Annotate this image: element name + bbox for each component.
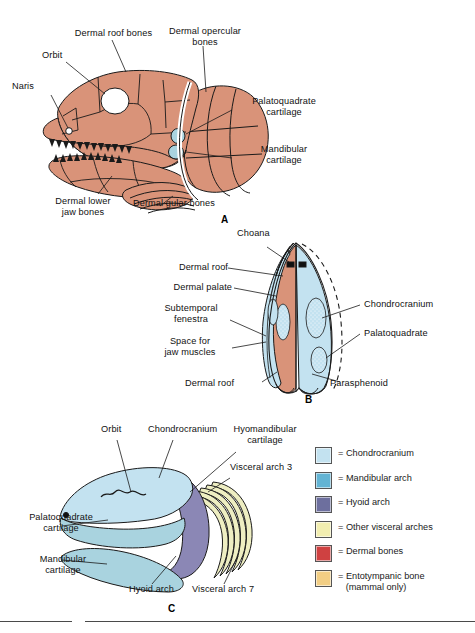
legend: = Chondrocranium = Mandibular arch = Hyo… [315, 447, 475, 600]
label-palatoquadrate-cartilage: Palatoquadrate cartilage [236, 96, 332, 118]
legend-label-dermal-bones: = Dermal bones [338, 545, 403, 557]
label-hyoid-arch: Hyoid arch [129, 584, 174, 595]
label-visceral-arch-3: Visceral arch 3 [230, 462, 292, 473]
label-chondrocranium-c: Chondrocranium [148, 424, 217, 435]
choana-right [299, 262, 306, 267]
label-orbit: Orbit [42, 50, 62, 61]
label-dermal-lower-jaw-bones: Dermal lower jaw bones [38, 196, 128, 218]
legend-swatch-entotympanic-bone [315, 570, 332, 587]
legend-label-entotympanic-bone: = Entotympanic bone (mammal only) [338, 570, 425, 593]
legend-item-chondrocranium: = Chondrocranium [315, 447, 475, 464]
label-space-for-jaw-muscles: Space for jaw muscles [150, 336, 230, 358]
panel-id-b: B [305, 394, 312, 405]
panel-id-c: C [168, 603, 175, 614]
legend-label-hyoid-arch: = Hyoid arch [338, 496, 390, 508]
label-dermal-palate: Dermal palate [148, 282, 232, 293]
orbit-shape [101, 88, 129, 114]
naris-shape [66, 128, 73, 135]
footer-rule-right [85, 621, 475, 622]
label-naris: Naris [12, 81, 34, 92]
label-subtemporal-fenestra: Subtemporal fenestra [152, 303, 230, 325]
panel-b-palate [262, 243, 342, 394]
legend-item-mandibular-arch: = Mandibular arch [315, 472, 475, 489]
panel-a-skull [43, 70, 268, 213]
panel-id-a: A [221, 214, 228, 225]
legend-item-hyoid-arch: = Hyoid arch [315, 496, 475, 513]
footer-rule-left [0, 621, 72, 622]
label-choana: Choana [237, 228, 270, 239]
legend-item-other-visceral-arches: = Other visceral arches [315, 521, 475, 538]
label-dermal-roof-upper: Dermal roof [148, 262, 228, 273]
legend-swatch-mandibular-arch [315, 472, 332, 489]
legend-label-mandibular-arch: = Mandibular arch [338, 472, 412, 484]
legend-label-other-visceral-arches: = Other visceral arches [338, 521, 433, 533]
choana-left [287, 262, 294, 267]
legend-item-entotympanic-bone: = Entotympanic bone (mammal only) [315, 570, 475, 593]
label-palatoquadrate-cartilage-c: Palatoquadrate cartilage [18, 512, 104, 534]
label-chondrocranium-b: Chondrocranium [364, 299, 433, 310]
legend-label-chondrocranium: = Chondrocranium [338, 447, 414, 459]
label-dermal-gular-bones: Dermal gular bones [133, 198, 215, 209]
label-dermal-roof-lower: Dermal roof [185, 378, 234, 389]
label-dermal-opercular-bones: Dermal opercular bones [152, 26, 258, 48]
label-mandibular-cartilage-c: Mandibular cartilage [22, 554, 104, 576]
legend-item-dermal-bones: = Dermal bones [315, 545, 475, 562]
label-visceral-arch-7: Visceral arch 7 [192, 584, 254, 595]
label-orbit-c: Orbit [101, 424, 121, 435]
label-hyomandibular-cartilage: Hyomandibular cartilage [228, 424, 302, 446]
label-mandibular-cartilage: Mandibular cartilage [238, 144, 330, 166]
legend-swatch-other-visceral-arches [315, 521, 332, 538]
legend-swatch-hyoid-arch [315, 496, 332, 513]
legend-swatch-dermal-bones [315, 545, 332, 562]
label-parasphenoid: Parasphenoid [330, 378, 388, 389]
legend-swatch-chondrocranium [315, 447, 332, 464]
label-palatoquadrate-b: Palatoquadrate [364, 328, 428, 339]
